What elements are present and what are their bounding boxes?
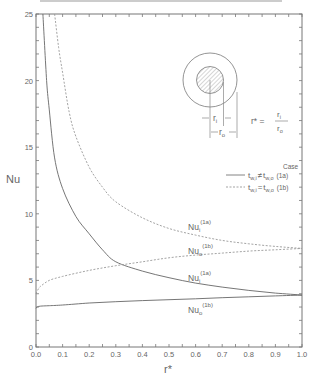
legend: Case tw,i≠tw,o(1a) tw,i=tw,o(1b) xyxy=(226,163,299,193)
axis-ticks xyxy=(36,14,302,347)
svg-text:15: 15 xyxy=(25,143,33,152)
curve-nu-i-1b xyxy=(55,14,302,248)
svg-text:10: 10 xyxy=(25,210,33,219)
svg-text:0.3: 0.3 xyxy=(111,350,121,359)
legend-entry-1b: tw,i=tw,o(1b) xyxy=(248,183,288,193)
curve-nu-i-1a xyxy=(43,14,302,295)
annotation-nu-i-1a-dashed: Nui(1a) xyxy=(188,219,211,233)
curve-annotations: Nui(1a) Nuo(1b) Nui(1a) Nuo(1b) xyxy=(188,219,213,316)
svg-text:0.5: 0.5 xyxy=(164,350,174,359)
svg-text:0.4: 0.4 xyxy=(137,350,147,359)
svg-text:0.1: 0.1 xyxy=(57,350,67,359)
legend-entry-1a: tw,i≠tw,o(1a) xyxy=(248,171,288,181)
inset-ri-label: ri xyxy=(213,113,217,124)
svg-text:5: 5 xyxy=(29,276,33,285)
nusselt-annulus-chart: 0.00.10.20.30.40.50.60.70.80.91.00510152… xyxy=(0,0,314,379)
curve-nu-o-1a xyxy=(36,295,302,308)
y-axis-label: Nu xyxy=(6,173,20,185)
svg-text:25: 25 xyxy=(25,10,33,19)
svg-text:1.0: 1.0 xyxy=(297,350,307,359)
svg-text:20: 20 xyxy=(25,77,33,86)
svg-text:0.6: 0.6 xyxy=(190,350,200,359)
curve-nu-o-1b xyxy=(36,248,302,293)
svg-text:0: 0 xyxy=(29,343,33,352)
inset-equation-lhs: r* = xyxy=(251,116,265,126)
x-axis-label: r* xyxy=(164,363,173,375)
inset-equation-numerator: ri xyxy=(277,110,281,120)
svg-text:0.8: 0.8 xyxy=(244,350,254,359)
annotation-nu-o-1b-solid: Nuo(1b) xyxy=(188,302,213,316)
annotation-nu-i-1a: Nui(1a) xyxy=(188,270,211,284)
plot-frame xyxy=(36,14,302,347)
svg-text:0.2: 0.2 xyxy=(84,350,94,359)
legend-title: Case xyxy=(283,163,299,170)
annotation-nu-o-1b: Nuo(1b) xyxy=(188,243,213,257)
svg-text:0.7: 0.7 xyxy=(217,350,227,359)
svg-text:0.9: 0.9 xyxy=(270,350,280,359)
annulus-inset-diagram: ri ro r* = ri ro xyxy=(183,53,288,138)
inset-ro-label: ro xyxy=(219,127,226,138)
inset-equation-denominator: ro xyxy=(277,124,283,134)
data-curves xyxy=(36,14,302,308)
